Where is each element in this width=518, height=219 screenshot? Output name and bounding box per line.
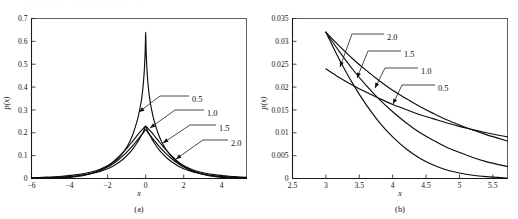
- panel-a: 00.10.20.30.40.50.60.7−6−4−2024 0.51.01.…: [2, 14, 247, 214]
- panel-b-curve-label: 1.5: [404, 50, 414, 59]
- panel-b-curve-1.0: [326, 32, 508, 141]
- panel-b-curve-label: 2.0: [387, 33, 397, 42]
- panel-a-ytick-label: 0.4: [18, 83, 28, 92]
- panel-a-curve-0.5: [32, 32, 247, 177]
- panel-a-frame: [32, 19, 247, 179]
- panel-b-xtick-label: 2.5: [288, 181, 298, 190]
- panel-a-xtick-label: −4: [66, 181, 74, 190]
- panel-a-ticks: [32, 19, 247, 179]
- panel-b-xtick-label: 5: [458, 181, 462, 190]
- panel-b-leader-arrowhead: [375, 82, 379, 88]
- panel-a-xaxis-title: x: [136, 189, 141, 198]
- panel-b: 00.0050.010.0150.020.0250.030.0352.533.5…: [259, 14, 508, 214]
- panel-b-ytick-label: 0.02: [275, 83, 288, 92]
- panel-a-xtick-label: 4: [220, 181, 224, 190]
- panel-a-ytick-label: 0.6: [18, 37, 28, 46]
- panel-b-yaxis-title: p(x): [259, 96, 268, 110]
- panel-b-curves: [326, 32, 508, 178]
- panel-a-annotations: 0.51.01.52.0: [139, 95, 241, 159]
- panel-a-xtick-label: −2: [104, 181, 112, 190]
- panel-b-xtick-label: 4.5: [421, 181, 431, 190]
- panel-a-ytick-label: 0.2: [18, 128, 28, 137]
- panel-a-xtick-label: 0: [144, 181, 148, 190]
- panel-b-curve-label: 1.0: [421, 67, 431, 76]
- panel-b-annotations: 2.01.51.00.5: [340, 33, 449, 104]
- panel-a-ytick-label: 0.5: [18, 60, 28, 69]
- panel-b-xtick-label: 4: [391, 181, 395, 190]
- panel-b-curve-label: 0.5: [438, 84, 448, 93]
- panel-b-leader-arrowhead: [393, 98, 397, 104]
- panel-b-curve-1.5: [326, 32, 508, 166]
- panel-b-xtick-label: 3: [324, 181, 328, 190]
- panel-a-ytick-label: 0.3: [18, 106, 28, 115]
- panel-a-caption: (a): [134, 205, 144, 214]
- panel-a-yaxis-title: p(x): [2, 96, 11, 110]
- panel-b-xaxis-title: x: [397, 189, 402, 198]
- panel-a-ytick-label: 0.7: [18, 14, 28, 23]
- panel-b-ytick-label: 0.015: [271, 106, 288, 115]
- panel-a-curve-label: 0.5: [192, 95, 202, 104]
- panel-a-curves: [32, 32, 247, 178]
- panel-a-curve-2.0: [32, 126, 247, 178]
- panel-b-ticks: [293, 19, 508, 179]
- panel-b-ytick-label: 0.035: [271, 14, 288, 23]
- panel-a-leader-arrowhead: [176, 154, 181, 159]
- panel-a-curve-label: 1.0: [207, 109, 217, 118]
- panel-b-ytick-label: 0.025: [271, 60, 288, 69]
- panel-b-ticklabels: 00.0050.010.0150.020.0250.030.0352.533.5…: [271, 14, 497, 190]
- panel-a-leader-arrowhead: [163, 138, 168, 143]
- panel-b-frame: [293, 19, 508, 179]
- panel-a-curve-1.5: [32, 130, 247, 179]
- panel-b-ytick-label: 0.03: [275, 37, 288, 46]
- panel-b-xtick-label: 3.5: [355, 181, 365, 190]
- panel-a-xtick-label: −6: [27, 181, 35, 190]
- panel-a-xtick-label: 2: [182, 181, 186, 190]
- panel-b-curve-0.5: [326, 69, 508, 137]
- panel-a-curve-label: 1.5: [219, 124, 229, 133]
- panel-a-curve-label: 2.0: [231, 139, 241, 148]
- panel-b-xtick-label: 5.5: [488, 181, 498, 190]
- panel-b-caption: (b): [395, 205, 405, 214]
- panel-b-leader-line: [357, 51, 401, 78]
- panel-a-ytick-label: 0.1: [18, 151, 28, 160]
- figure-canvas: 00.10.20.30.40.50.60.7−6−4−2024 0.51.01.…: [0, 0, 518, 219]
- panel-b-ytick-label: 0.01: [275, 128, 288, 137]
- panel-a-leader-line: [176, 140, 228, 159]
- panel-b-ytick-label: 0.005: [271, 151, 288, 160]
